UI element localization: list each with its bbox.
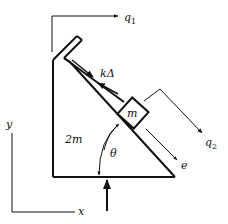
spring-force-label: kΔ xyxy=(100,67,115,80)
x-axis-label: x xyxy=(78,205,85,218)
q2-arrow xyxy=(144,89,202,133)
theta-label: θ xyxy=(110,147,117,160)
e-label: e xyxy=(181,159,188,172)
y-axis-label: y xyxy=(5,118,13,131)
q2-label: q2 xyxy=(205,136,217,151)
block-mass-label: m xyxy=(127,107,137,120)
e-arrow xyxy=(146,129,177,160)
wedge-block-diagram: q1 kΔ m q2 e θ 2m xyxy=(0,0,228,224)
wedge-mass-label: 2m xyxy=(64,133,82,146)
q1-arrow xyxy=(52,16,118,52)
q1-label: q1 xyxy=(124,11,136,26)
